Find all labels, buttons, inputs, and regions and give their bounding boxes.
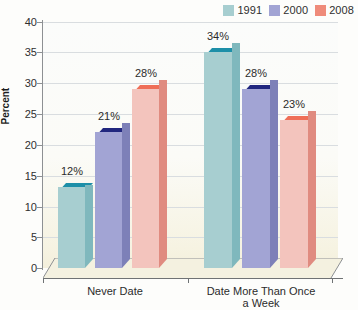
bar-value-label-never-date-2008: 28% <box>124 68 168 79</box>
bar-front-face <box>95 132 122 268</box>
bar-never-date-2008 <box>132 80 159 268</box>
legend-label-2008: 2008 <box>329 5 354 16</box>
x-tick-mid <box>188 278 189 283</box>
y-tick-35 <box>37 52 43 53</box>
y-tick-label-40: 40 <box>13 17 37 28</box>
chart-legend: 1991 2000 2008 <box>223 2 354 18</box>
bar-side-face <box>85 185 93 268</box>
x-tick-right <box>332 278 333 283</box>
legend-item-1991: 1991 <box>223 5 262 16</box>
bar-side-face <box>159 80 167 268</box>
y-tick-label-30: 30 <box>13 78 37 89</box>
bar-side-face <box>308 111 316 268</box>
y-tick-label-0: 0 <box>13 263 37 274</box>
y-tick-label-20: 20 <box>13 140 37 151</box>
bar-never-date-2000 <box>95 123 122 268</box>
bar-value-label-date-weekly-2008: 23% <box>272 99 316 110</box>
bar-value-label-never-date-1991: 12% <box>50 166 94 177</box>
bar-chart: 1991 2000 2008 Percent 40 35 30 25 20 1 <box>0 0 358 310</box>
bar-date-weekly-2000 <box>242 80 270 268</box>
x-axis-label-date-weekly-line2: a Week <box>196 297 326 309</box>
y-tick-label-25: 25 <box>13 109 37 120</box>
gridline-35 <box>43 52 338 53</box>
x-axis-label-date-weekly-line1: Date More Than Once <box>196 285 326 297</box>
y-tick-label-5: 5 <box>13 232 37 243</box>
x-tick-left <box>43 278 44 283</box>
legend-swatch-2000 <box>269 5 280 16</box>
bar-value-label-date-weekly-2000: 28% <box>234 68 278 79</box>
legend-item-2000: 2000 <box>269 5 308 16</box>
legend-item-2008: 2008 <box>315 5 354 16</box>
bar-front-face <box>58 187 85 268</box>
y-tick-25 <box>37 114 43 115</box>
y-tick-15 <box>37 176 43 177</box>
bar-never-date-1991 <box>58 178 85 268</box>
y-tick-5 <box>37 237 43 238</box>
y-tick-label-10: 10 <box>13 202 37 213</box>
y-tick-label-35: 35 <box>13 47 37 58</box>
bar-value-label-date-weekly-1991: 34% <box>196 31 240 42</box>
bar-front-face <box>204 52 232 268</box>
legend-swatch-2008 <box>315 5 326 16</box>
y-tick-label-15: 15 <box>13 171 37 182</box>
x-axis-label-never-date: Never Date <box>60 285 170 297</box>
x-axis-line <box>43 278 343 279</box>
legend-swatch-1991 <box>223 5 234 16</box>
y-tick-40 <box>37 22 43 23</box>
bar-date-weekly-1991 <box>204 43 232 268</box>
y-tick-10 <box>37 207 43 208</box>
y-tick-30 <box>37 83 43 84</box>
y-axis-title: Percent <box>0 111 11 125</box>
bar-front-face <box>132 89 159 268</box>
gridline-30 <box>43 83 338 84</box>
bar-front-face <box>280 120 308 268</box>
bar-date-weekly-2008 <box>280 111 308 268</box>
bar-value-label-never-date-2000: 21% <box>87 111 131 122</box>
y-tick-20 <box>37 145 43 146</box>
legend-label-2000: 2000 <box>283 5 308 16</box>
bar-side-face <box>122 123 130 268</box>
bar-front-face <box>242 89 270 268</box>
legend-label-1991: 1991 <box>237 5 262 16</box>
gridline-40 <box>43 22 338 23</box>
